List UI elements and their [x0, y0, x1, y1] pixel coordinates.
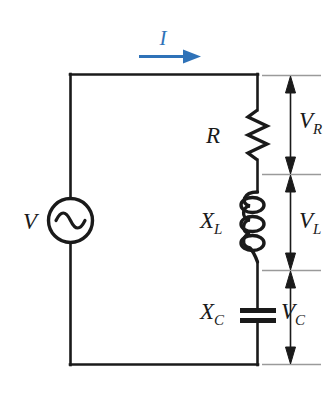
label-inductor-xl: XL [199, 208, 222, 237]
label-voltage-vr: VR [299, 108, 322, 137]
label-resistor-r: R [205, 123, 220, 148]
label-capacitor-xc: XC [199, 299, 225, 328]
label-voltage-vl: VL [299, 208, 321, 237]
label-source-v: V [23, 209, 40, 234]
capacitor-plates-icon [240, 311, 276, 321]
label-current-i: I [159, 26, 168, 50]
label-inductor-xl-main: X [199, 208, 215, 233]
label-inductor-xl-sub: L [213, 221, 222, 237]
arrowhead-vr-up [286, 76, 296, 93]
circuit-wires [70, 74, 258, 365]
label-capacitor-xc-main: X [199, 299, 215, 324]
circuit-diagram-figure: V I R XL XC VR VL VC [0, 0, 333, 393]
label-voltage-vr-sub: R [312, 121, 322, 137]
label-voltage-vc: VC [281, 299, 306, 328]
inductor-coil-icon [241, 192, 264, 262]
arrowhead-vr-down [286, 157, 296, 174]
current-arrow-icon [139, 50, 201, 64]
circuit-svg: V I R XL XC VR VL VC [0, 0, 333, 393]
resistor-zigzag-icon [248, 110, 267, 160]
label-capacitor-xc-sub: C [214, 312, 225, 328]
arrowhead-vl-up [286, 175, 296, 192]
arrowhead-vc-up [286, 271, 296, 288]
label-voltage-vl-sub: L [312, 221, 321, 237]
arrowhead-vl-down [286, 253, 296, 270]
ac-source-icon [49, 199, 93, 243]
label-voltage-vc-sub: C [295, 312, 306, 328]
arrowhead-vc-down [286, 347, 296, 364]
